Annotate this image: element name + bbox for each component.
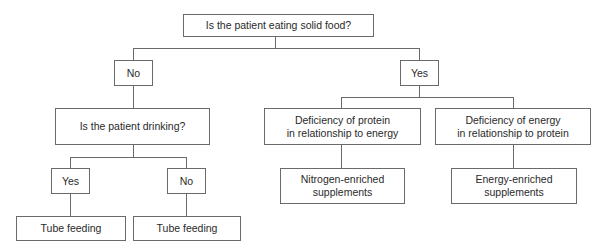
root-question-node: Is the patient eating solid food? <box>183 14 374 37</box>
drinking-question-node: Is the patient drinking? <box>55 108 210 145</box>
tube-feeding-left-node: Tube feeding <box>16 216 126 241</box>
connector-yes-to-tube <box>70 193 71 216</box>
nitrogen-enriched-line2: supplements <box>313 186 373 199</box>
protein-deficiency-line1: Deficiency of protein <box>295 114 390 127</box>
nitrogen-enriched-node: Nitrogen-enriched supplements <box>280 168 405 204</box>
energy-enriched-line2: supplements <box>484 186 544 199</box>
yes-text: Yes <box>411 67 428 80</box>
yes-node: Yes <box>400 60 439 86</box>
connector-root <box>275 36 276 48</box>
root-question-text: Is the patient eating solid food? <box>206 19 351 32</box>
connector-drinking <box>133 144 134 157</box>
nitrogen-enriched-line1: Nitrogen-enriched <box>301 173 384 186</box>
protein-deficiency-line2: in relationship to energy <box>287 127 399 140</box>
drinking-no-text: No <box>180 175 193 188</box>
no-node: No <box>114 60 153 86</box>
connector-to-protein <box>341 97 342 108</box>
drinking-yes-text: Yes <box>62 175 79 188</box>
energy-deficiency-line1: Deficiency of energy <box>465 114 560 127</box>
tube-feeding-right-text: Tube feeding <box>157 222 218 235</box>
energy-enriched-line1: Energy-enriched <box>475 173 552 186</box>
connector-protein-to-nitrogen <box>341 144 342 168</box>
protein-deficiency-node: Deficiency of protein in relationship to… <box>264 108 421 145</box>
connector-no-to-tube <box>186 193 187 216</box>
connector-to-energy <box>513 97 514 108</box>
connector-drinking-branch <box>70 157 186 158</box>
drinking-yes-node: Yes <box>51 168 90 194</box>
tube-feeding-right-node: Tube feeding <box>133 216 241 241</box>
drinking-question-text: Is the patient drinking? <box>80 120 186 133</box>
drinking-no-node: No <box>167 168 206 194</box>
no-text: No <box>127 67 140 80</box>
connector-yes <box>419 85 420 97</box>
energy-deficiency-node: Deficiency of energy in relationship to … <box>435 108 591 145</box>
connector-yes-branch <box>341 97 513 98</box>
connector-no-to-drinking <box>133 85 134 108</box>
connector-energy-to-energy-enriched <box>513 144 514 168</box>
connector-to-yes <box>419 48 420 60</box>
connector-to-drinking-no <box>186 157 187 168</box>
connector-to-no <box>133 48 134 60</box>
connector-root-branch <box>133 48 420 49</box>
connector-to-drinking-yes <box>70 157 71 168</box>
energy-enriched-node: Energy-enriched supplements <box>451 168 577 204</box>
energy-deficiency-line2: in relationship to protein <box>457 127 569 140</box>
tube-feeding-left-text: Tube feeding <box>41 222 102 235</box>
